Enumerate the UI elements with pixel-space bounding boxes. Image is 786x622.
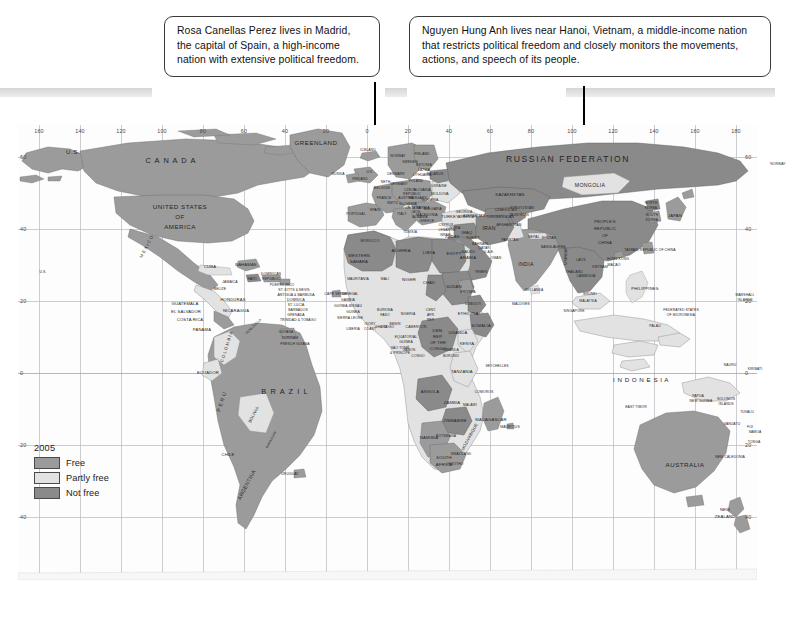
legend-item-not-free[interactable]: Not free xyxy=(34,487,138,499)
tick-longitude-top-20: 20 xyxy=(323,128,329,134)
legend-item-partly-free[interactable]: Partly free xyxy=(34,472,138,484)
world-map[interactable]: U.S.C A N A D AGREENLANDICELANDUNITED ST… xyxy=(18,125,757,580)
tick-latitude-right-5: 40 xyxy=(745,514,751,520)
legend-label-partly-free: Partly free xyxy=(66,473,109,483)
tick-longitude-top-40: 40 xyxy=(446,128,452,134)
tick-longitude-top-160: 160 xyxy=(34,128,44,134)
tick-longitude-top-40: 40 xyxy=(282,128,288,134)
tick-longitude-top-140: 140 xyxy=(75,128,85,134)
tick-longitude-top-20: 20 xyxy=(405,128,411,134)
legend-item-free[interactable]: Free xyxy=(34,457,138,469)
legend-swatch-partly-free xyxy=(34,472,60,484)
tick-latitude-left-1: 40 xyxy=(20,226,26,232)
tick-longitude-top-0: 0 xyxy=(365,128,368,134)
tick-longitude-top-120: 120 xyxy=(116,128,126,134)
tick-latitude-left-2: 20 xyxy=(20,298,26,304)
tick-longitude-top-80: 80 xyxy=(528,128,534,134)
tick-latitude-right-2: 20 xyxy=(745,298,751,304)
tick-longitude-top-80: 80 xyxy=(200,128,206,134)
tick-latitude-right-4: 20 xyxy=(745,442,751,448)
tick-longitude-top-160: 160 xyxy=(690,128,700,134)
tick-latitude-left-5: 40 xyxy=(20,514,26,520)
tick-longitude-top-120: 120 xyxy=(608,128,618,134)
tick-latitude-right-3: 0 xyxy=(745,370,748,376)
legend-swatch-not-free xyxy=(34,487,60,499)
tick-longitude-top-60: 60 xyxy=(241,128,247,134)
tick-longitude-top-100: 100 xyxy=(567,128,577,134)
legend-label-not-free: Not free xyxy=(66,488,99,498)
tick-latitude-left-4: 20 xyxy=(20,442,26,448)
tick-longitude-top-180: 180 xyxy=(731,128,741,134)
legend-swatch-free xyxy=(34,457,60,469)
tick-latitude-right-0: 60 xyxy=(745,154,751,160)
map-legend: 2005 Free Partly free Not free xyxy=(34,443,138,502)
tick-longitude-top-60: 60 xyxy=(487,128,493,134)
legend-label-free: Free xyxy=(66,458,85,468)
tick-latitude-left-3: 0 xyxy=(20,370,23,376)
callout-spain: Rosa Canellas Perez lives in Madrid, the… xyxy=(164,16,380,77)
map-label-norway: NORWAY xyxy=(770,163,785,167)
tick-latitude-right-1: 40 xyxy=(745,226,751,232)
tick-longitude-top-100: 100 xyxy=(157,128,167,134)
callout-vietnam: Nguyen Hung Anh lives near Hanoi, Vietna… xyxy=(409,16,771,77)
page-band-left xyxy=(0,88,152,97)
page-band-mid xyxy=(385,88,407,97)
tick-latitude-left-0: 60 xyxy=(20,154,26,160)
landmass-layer xyxy=(18,125,757,580)
legend-year: 2005 xyxy=(34,443,138,453)
tick-longitude-top-140: 140 xyxy=(649,128,659,134)
page-band-right xyxy=(566,88,775,97)
